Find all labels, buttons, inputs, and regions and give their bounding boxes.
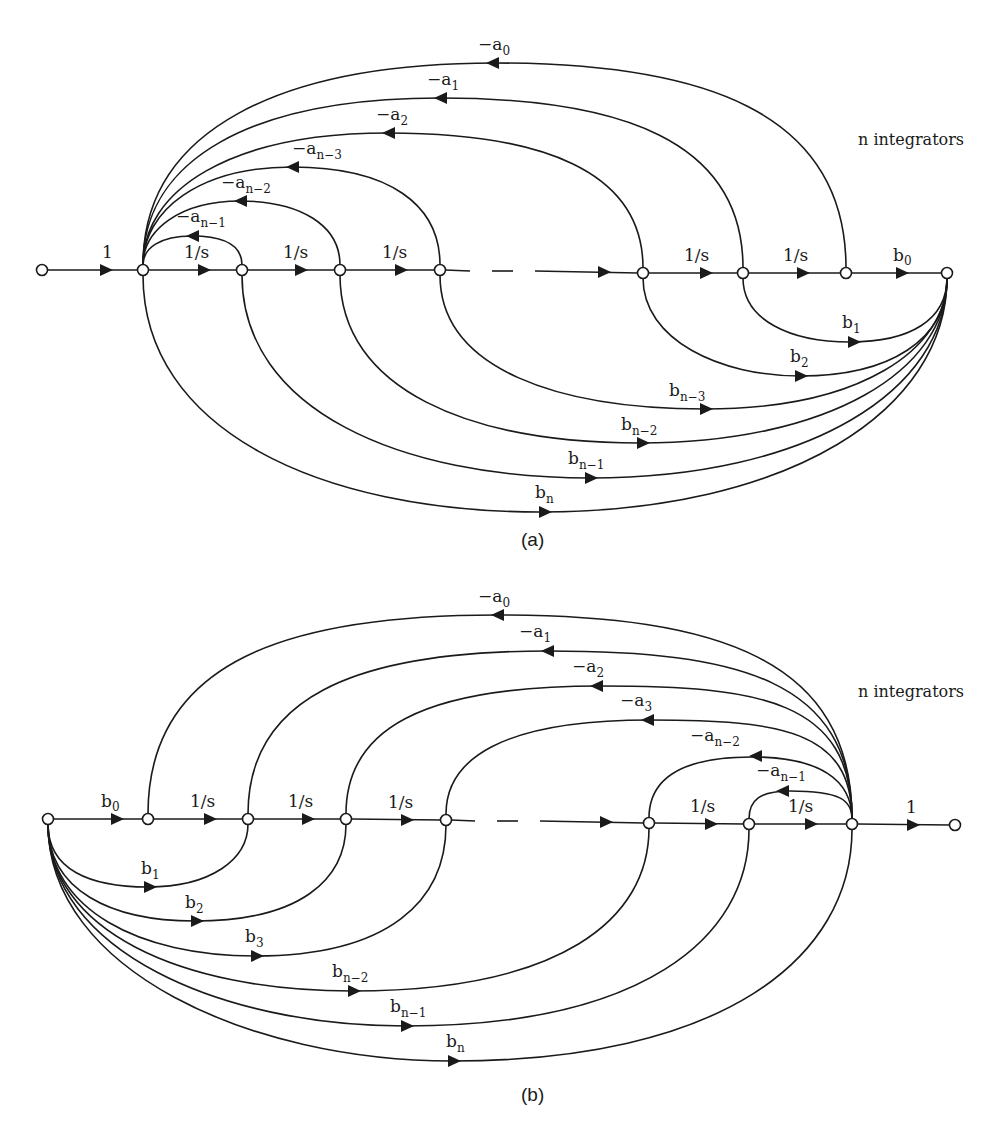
node-output [942, 268, 953, 279]
node [341, 814, 352, 825]
gain-label: 1/s [184, 242, 209, 262]
coefficient-label: bn−2 [332, 961, 368, 985]
gain-label: b0 [893, 245, 912, 268]
gain-label: 1/s [382, 242, 407, 262]
gain-label: 1/s [283, 242, 308, 262]
arrow-icon [204, 813, 217, 825]
coefficient-label: −a0 [478, 586, 510, 610]
coefficient-label: −a1 [427, 69, 459, 93]
arrow-icon [600, 816, 613, 828]
forward-labels-b: b0 1/s 1/s 1/s 1/s 1/s 1 [101, 791, 917, 817]
node [237, 265, 248, 276]
coefficient-label: −an−1 [176, 206, 226, 230]
coefficient-label: −an−2 [221, 172, 271, 196]
arrow-icon [302, 813, 315, 825]
node [638, 268, 649, 279]
coefficient-label: −a2 [572, 656, 604, 680]
coefficient-label: bn−1 [568, 448, 604, 472]
gain-label: 1/s [788, 796, 813, 816]
arrow-icon [144, 881, 157, 893]
arrow-icon [795, 370, 808, 382]
arrow-icon [395, 264, 408, 276]
arrow-icon [111, 813, 124, 825]
caption-b: (b) [521, 1084, 544, 1105]
arrow-icon [848, 336, 861, 348]
gain-label: 1/s [190, 791, 215, 811]
arrow-icon [295, 264, 308, 276]
coefficient-label: b3 [245, 926, 264, 950]
coefficient-label: −a1 [519, 621, 551, 645]
coefficient-label: bn−1 [390, 996, 426, 1020]
arrow-icon [198, 264, 211, 276]
coefficient-label: −an−1 [756, 760, 806, 784]
coefficient-label: −a3 [620, 690, 652, 714]
gain-label: 1/s [288, 791, 313, 811]
node [335, 265, 346, 276]
arrow-icon [896, 267, 909, 279]
gain-label: b0 [101, 791, 120, 814]
gain-label: 1 [102, 242, 113, 262]
node [435, 265, 446, 276]
node [744, 819, 755, 830]
arrow-icon [348, 985, 361, 997]
node [143, 814, 154, 825]
coefficient-label: bn−2 [621, 414, 657, 438]
arrow-icon [700, 267, 713, 279]
arrow-icon [705, 818, 718, 830]
gain-label: 1 [906, 797, 917, 817]
annotation-n-integrators: n integrators [858, 682, 964, 701]
arrow-icon [234, 195, 247, 207]
arrow-icon [805, 818, 818, 830]
coefficient-label: b1 [141, 858, 160, 882]
arrow-icon [539, 506, 552, 518]
arrow-icon [251, 950, 264, 962]
diagram-b: b0 1/s 1/s 1/s 1/s 1/s 1 −a0 −a1 −a2 −a3… [43, 586, 965, 1105]
arrow-icon [491, 609, 504, 621]
node [441, 815, 452, 826]
gain-label: 1/s [388, 792, 413, 812]
arrow-icon [700, 403, 713, 415]
forward-path-a [47, 264, 942, 279]
coefficient-label: bn [535, 482, 554, 506]
coefficient-label: b1 [842, 312, 861, 336]
arrow-icon [541, 645, 554, 657]
annotation-n-integrators: n integrators [858, 130, 964, 149]
node [644, 818, 655, 829]
arrow-icon [186, 230, 199, 242]
nodes-b [43, 814, 961, 831]
gain-label: 1/s [783, 245, 808, 265]
arrow-icon [382, 127, 395, 139]
coefficient-label: b2 [185, 892, 204, 916]
feedback-paths-a [143, 57, 846, 268]
arrow-icon [637, 437, 650, 449]
signal-flow-figure: 1 1/s 1/s 1/s 1/s 1/s b0 −a0 −a1 −a2 −an… [0, 0, 1001, 1130]
gain-label: 1/s [690, 796, 715, 816]
coefficient-label: b2 [790, 346, 809, 370]
coefficient-label: −an−3 [292, 138, 342, 162]
node [138, 265, 149, 276]
arrow-icon [401, 1020, 414, 1032]
diagram-a: 1 1/s 1/s 1/s 1/s 1/s b0 −a0 −a1 −a2 −an… [37, 34, 965, 550]
node [841, 268, 852, 279]
node-input [37, 265, 48, 276]
coefficient-label: −a2 [376, 104, 408, 128]
feedback-paths-b [148, 609, 852, 819]
node-output [950, 820, 961, 831]
node-input [43, 814, 54, 825]
arrow-icon [641, 714, 654, 726]
arrow-icon [486, 57, 499, 69]
coefficient-label: bn−3 [669, 380, 705, 404]
arrow-icon [585, 472, 598, 484]
node [738, 268, 749, 279]
arrow-icon [434, 92, 447, 104]
coefficient-label: −an−2 [690, 725, 740, 749]
arrow-icon [191, 915, 204, 927]
coefficient-label: −a0 [478, 34, 510, 58]
forward-labels-a: 1 1/s 1/s 1/s 1/s 1/s b0 [102, 242, 912, 268]
arrow-icon [401, 814, 414, 826]
arrow-icon [286, 161, 299, 173]
caption-a: (a) [521, 529, 544, 550]
arrow-icon [797, 267, 810, 279]
arrow-icon [448, 1055, 461, 1067]
coefficient-label: bn [446, 1031, 465, 1055]
